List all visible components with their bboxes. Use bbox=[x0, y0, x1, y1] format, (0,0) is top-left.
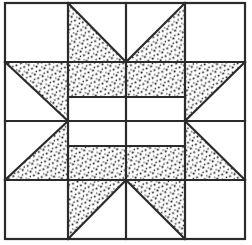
quilt-block-drawing bbox=[0, 0, 252, 245]
quilt-block-figure bbox=[0, 0, 252, 245]
